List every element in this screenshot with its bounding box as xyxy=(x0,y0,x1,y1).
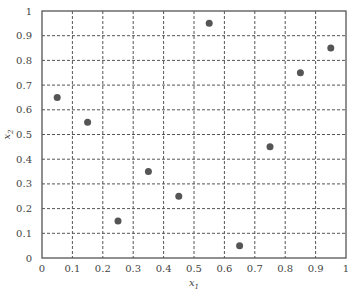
data-point xyxy=(175,193,182,200)
y-tick-label: 0.8 xyxy=(16,55,32,66)
data-point xyxy=(327,45,334,52)
data-point xyxy=(115,217,122,224)
data-point xyxy=(267,143,274,150)
data-point xyxy=(145,168,152,175)
data-point xyxy=(236,242,243,249)
data-point xyxy=(206,20,213,27)
y-tick-label: 0.7 xyxy=(16,80,32,91)
y-tick-label: 0 xyxy=(26,253,32,264)
x-axis-label: x1 xyxy=(189,277,199,291)
y-tick-label: 0.5 xyxy=(16,129,32,140)
x-tick-label: 0.5 xyxy=(186,263,202,274)
data-point xyxy=(84,119,91,126)
y-tick-label: 0.9 xyxy=(16,30,32,41)
y-tick-label: 0.6 xyxy=(16,104,32,115)
x-tick-label: 0.2 xyxy=(95,263,111,274)
grid-lines xyxy=(42,11,346,258)
scatter-chart: 00.10.20.30.40.50.60.70.80.91 00.10.20.3… xyxy=(0,0,351,295)
x-tick-label: 0 xyxy=(39,263,45,274)
y-tick-label: 0.4 xyxy=(16,154,32,165)
x-tick-label: 1 xyxy=(343,263,349,274)
y-tick-label: 1 xyxy=(26,6,32,17)
y-axis-label: x2 xyxy=(1,129,15,140)
data-point xyxy=(54,94,61,101)
y-tick-label: 0.2 xyxy=(16,203,32,214)
x-tick-label: 0.8 xyxy=(277,263,293,274)
y-tick-label: 0.3 xyxy=(16,178,32,189)
y-axis-ticks: 00.10.20.30.40.50.60.70.80.91 xyxy=(16,6,32,264)
x-tick-label: 0.3 xyxy=(125,263,141,274)
x-tick-label: 0.1 xyxy=(64,263,80,274)
y-tick-label: 0.1 xyxy=(16,228,32,239)
data-point xyxy=(297,69,304,76)
x-tick-label: 0.4 xyxy=(156,263,172,274)
x-axis-ticks: 00.10.20.30.40.50.60.70.80.91 xyxy=(39,263,349,274)
x-tick-label: 0.7 xyxy=(247,263,263,274)
x-tick-label: 0.9 xyxy=(308,263,324,274)
x-tick-label: 0.6 xyxy=(216,263,232,274)
